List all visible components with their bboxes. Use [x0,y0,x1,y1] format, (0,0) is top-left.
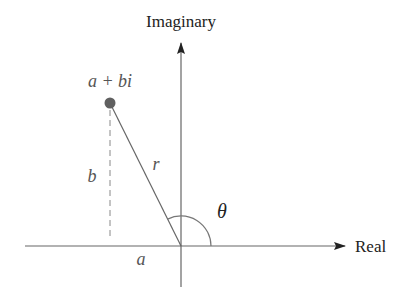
angle-theta-label: θ [217,200,227,222]
modulus-line [110,103,181,246]
complex-point [105,98,116,109]
real-axis-label: Real [355,237,386,256]
real-part-label: a [137,249,146,269]
imaginary-axis-label: Imaginary [146,12,216,31]
modulus-label: r [152,154,160,174]
point-label: a + bi [88,71,132,91]
imaginary-part-label: b [88,166,97,186]
complex-plane-diagram: Imaginary Real a + bi b r a θ [0,0,412,301]
